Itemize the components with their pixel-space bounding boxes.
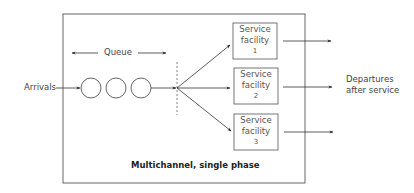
- departures-label-line1: Departures: [346, 74, 399, 85]
- queue-customer-icon: [81, 78, 101, 98]
- service-facility-1-number: 1: [233, 46, 277, 57]
- queue-label: Queue: [104, 47, 132, 57]
- queue-customer-icon: [106, 78, 126, 98]
- queue-customer-icon: [131, 78, 151, 98]
- service-facility-3: Service facility 3: [234, 115, 278, 148]
- service-facility-2-line2: facility: [234, 80, 278, 91]
- service-facility-1-line2: facility: [233, 35, 277, 46]
- departures-label-line2: after service: [346, 85, 399, 96]
- branch-arrow-1: [177, 45, 230, 88]
- diagram-title: Multichannel, single phase: [131, 160, 260, 170]
- service-facility-2: Service facility 2: [234, 69, 278, 102]
- service-facility-3-number: 3: [234, 137, 278, 148]
- service-facility-2-line1: Service: [234, 69, 278, 80]
- service-facility-1-line1: Service: [233, 24, 277, 35]
- branch-arrow-3: [177, 88, 231, 131]
- service-facility-3-line2: facility: [234, 126, 278, 137]
- arrivals-label: Arrivals: [24, 82, 56, 92]
- service-facility-2-number: 2: [234, 91, 278, 102]
- service-facility-3-line1: Service: [234, 115, 278, 126]
- departures-label: Departures after service: [346, 74, 399, 96]
- service-facility-1: Service facility 1: [233, 24, 277, 57]
